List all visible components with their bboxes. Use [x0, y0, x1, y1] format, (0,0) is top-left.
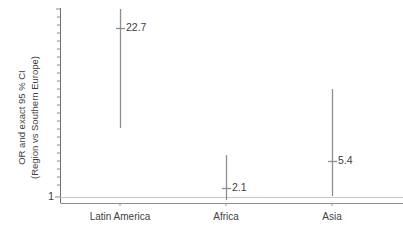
y-axis-ticks [55, 9, 61, 197]
error-bar-asia [328, 89, 337, 196]
x-axis-label-africa: Africa [176, 211, 276, 222]
data-label-africa: 2.1 [232, 181, 247, 193]
data-label-asia: 5.4 [338, 154, 353, 166]
chart-figure: OR and exact 95 % CI (Region vs Southern… [0, 0, 403, 238]
data-label-latin-america: 22.7 [126, 21, 146, 33]
x-axis-label-latin-america: Latin America [70, 211, 170, 222]
error-bar-africa [222, 155, 231, 200]
x-axis-label-asia: Asia [282, 211, 382, 222]
chart-plot-area [0, 0, 403, 238]
error-bar-latin-america [116, 9, 125, 128]
